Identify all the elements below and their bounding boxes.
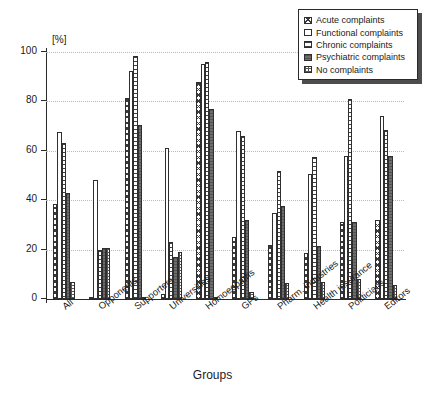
legend-item: Chronic complaints bbox=[304, 39, 413, 51]
bar bbox=[209, 109, 213, 299]
x-axis-title: Groups bbox=[0, 368, 425, 382]
legend-swatch bbox=[304, 66, 312, 73]
legend-label: Chronic complaints bbox=[316, 40, 393, 50]
legend-label: Functional complaints bbox=[316, 28, 403, 38]
bar bbox=[138, 125, 142, 299]
bar-group bbox=[304, 52, 325, 299]
legend-label: Acute complaints bbox=[316, 15, 385, 25]
y-tick-label: 60 bbox=[26, 144, 37, 155]
y-tick-mark bbox=[41, 249, 46, 250]
legend-item: No complaints bbox=[304, 64, 413, 76]
bar-group bbox=[340, 52, 361, 299]
bar bbox=[70, 282, 74, 299]
bar-group-bars bbox=[340, 52, 361, 299]
y-tick-label: 100 bbox=[20, 45, 37, 56]
legend-swatch bbox=[304, 41, 312, 48]
y-tick-label: 80 bbox=[26, 94, 37, 105]
bar-group-bars bbox=[196, 52, 217, 299]
legend-swatch bbox=[304, 54, 312, 61]
plot-area: 020406080100 bbox=[46, 52, 404, 299]
legend-swatch bbox=[304, 29, 312, 36]
bar bbox=[388, 156, 392, 299]
legend-item: Acute complaints bbox=[304, 14, 413, 26]
bar-group bbox=[161, 52, 182, 299]
bar-group-bars bbox=[53, 52, 74, 299]
bar-group-bars bbox=[375, 52, 396, 299]
y-tick-mark bbox=[41, 199, 46, 200]
bar-group-bars bbox=[304, 52, 325, 299]
y-tick-mark bbox=[41, 298, 46, 299]
y-tick-mark bbox=[41, 150, 46, 151]
y-tick-mark bbox=[41, 100, 46, 101]
bar-group-bars bbox=[268, 52, 289, 299]
y-tick-label: 0 bbox=[31, 292, 37, 303]
bar-group bbox=[232, 52, 253, 299]
y-axis-unit-label: [%] bbox=[52, 34, 66, 45]
legend-label: Psychiatric complaints bbox=[316, 52, 405, 62]
bar-chart: [%] 020406080100 AllOpponentsSupportersU… bbox=[0, 0, 425, 402]
bar-group bbox=[53, 52, 74, 299]
y-tick-label: 20 bbox=[26, 243, 37, 254]
bar-group-bars bbox=[89, 52, 110, 299]
legend-label: No complaints bbox=[316, 65, 373, 75]
y-tick-label: 40 bbox=[26, 193, 37, 204]
y-tick-mark bbox=[41, 51, 46, 52]
legend-item: Psychiatric complaints bbox=[304, 51, 413, 63]
bar-group bbox=[89, 52, 110, 299]
bar bbox=[245, 220, 249, 299]
legend: Acute complaintsFunctional complaintsChr… bbox=[298, 9, 418, 80]
bar-group bbox=[125, 52, 146, 299]
legend-item: Functional complaints bbox=[304, 26, 413, 38]
bar-group bbox=[375, 52, 396, 299]
bar-group bbox=[196, 52, 217, 299]
bar-group-bars bbox=[161, 52, 182, 299]
legend-swatch bbox=[304, 17, 312, 24]
bar-group-bars bbox=[232, 52, 253, 299]
bar-group bbox=[268, 52, 289, 299]
bar-group-bars bbox=[125, 52, 146, 299]
